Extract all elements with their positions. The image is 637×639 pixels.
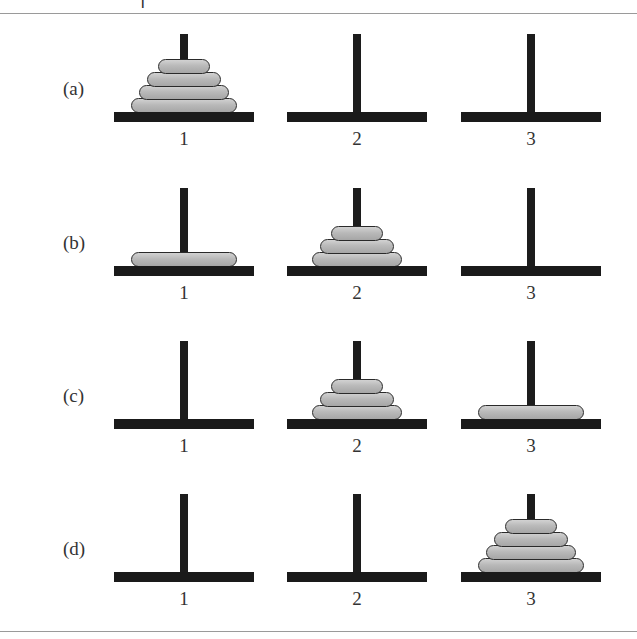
peg-number-label: 1 <box>114 588 254 610</box>
peg-base <box>461 112 601 122</box>
row-label: (c) <box>63 385 84 407</box>
peg-1: 1 <box>114 341 254 471</box>
configuration-row: (b)123 <box>0 188 637 342</box>
peg-base <box>114 112 254 122</box>
peg-1: 1 <box>114 494 254 624</box>
peg-number-label: 1 <box>114 128 254 150</box>
disk-size-1 <box>331 379 383 394</box>
peg-number-label: 2 <box>287 588 427 610</box>
disk-size-1 <box>331 226 383 241</box>
peg-2: 2 <box>287 34 427 164</box>
peg-pole <box>353 494 361 574</box>
disk-size-3 <box>486 545 576 560</box>
disk-size-2 <box>147 72 221 87</box>
peg-base <box>461 266 601 276</box>
disk-size-3 <box>139 85 229 100</box>
peg-2: 2 <box>287 341 427 471</box>
peg-base <box>461 572 601 582</box>
peg-number-label: 2 <box>287 128 427 150</box>
peg-base <box>287 419 427 429</box>
peg-3: 3 <box>461 34 601 164</box>
peg-base <box>114 572 254 582</box>
disk-size-2 <box>320 392 394 407</box>
cropped-page-number: 1 <box>138 0 147 8</box>
peg-number-label: 3 <box>461 435 601 457</box>
peg-pole <box>180 494 188 574</box>
disk-size-2 <box>320 239 394 254</box>
peg-3: 3 <box>461 494 601 624</box>
disk-size-1 <box>158 59 210 74</box>
peg-1: 1 <box>114 34 254 164</box>
disk-size-1 <box>505 519 557 534</box>
bottom-rule <box>0 631 637 632</box>
peg-3: 3 <box>461 341 601 471</box>
row-label: (d) <box>63 538 85 560</box>
peg-1: 1 <box>114 188 254 318</box>
peg-base <box>287 266 427 276</box>
peg-pole <box>527 34 535 114</box>
disk-size-4 <box>478 405 584 420</box>
peg-2: 2 <box>287 494 427 624</box>
peg-number-label: 1 <box>114 435 254 457</box>
configuration-row: (a)123 <box>0 34 637 188</box>
disk-size-4 <box>131 252 237 267</box>
configuration-row: (d)123 <box>0 494 637 639</box>
disk-size-4 <box>478 558 584 573</box>
peg-number-label: 3 <box>461 588 601 610</box>
row-label: (a) <box>63 78 84 100</box>
peg-base <box>114 419 254 429</box>
peg-number-label: 2 <box>287 435 427 457</box>
configuration-row: (c)123 <box>0 341 637 495</box>
peg-number-label: 1 <box>114 282 254 304</box>
peg-pole <box>180 341 188 421</box>
disk-size-3 <box>312 405 402 420</box>
row-label: (b) <box>63 232 85 254</box>
peg-2: 2 <box>287 188 427 318</box>
peg-number-label: 3 <box>461 282 601 304</box>
peg-base <box>461 419 601 429</box>
peg-pole <box>353 34 361 114</box>
peg-3: 3 <box>461 188 601 318</box>
peg-number-label: 3 <box>461 128 601 150</box>
peg-base <box>287 112 427 122</box>
top-rule <box>0 13 637 14</box>
disk-size-4 <box>131 98 237 113</box>
peg-base <box>287 572 427 582</box>
peg-pole <box>527 188 535 268</box>
disk-size-3 <box>312 252 402 267</box>
disk-size-2 <box>494 532 568 547</box>
peg-number-label: 2 <box>287 282 427 304</box>
peg-base <box>114 266 254 276</box>
